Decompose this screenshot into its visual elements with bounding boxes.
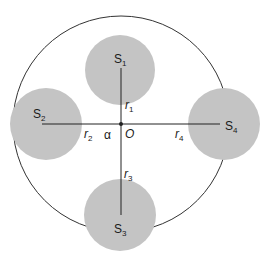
radius-label-r3: r3	[124, 167, 133, 183]
diagram: O α S1S2S3S4 r1r2r3r4	[0, 0, 268, 265]
radius-label-r4: r4	[175, 127, 184, 143]
radius-label-r2: r2	[84, 127, 93, 143]
center-label: O	[125, 127, 134, 141]
disk-s1	[85, 35, 155, 105]
disk-s3	[84, 179, 156, 251]
angle-label: α	[104, 128, 111, 142]
disks-group	[10, 35, 260, 251]
center-point	[119, 122, 123, 126]
diagram-canvas: O α S1S2S3S4 r1r2r3r4	[0, 0, 268, 265]
